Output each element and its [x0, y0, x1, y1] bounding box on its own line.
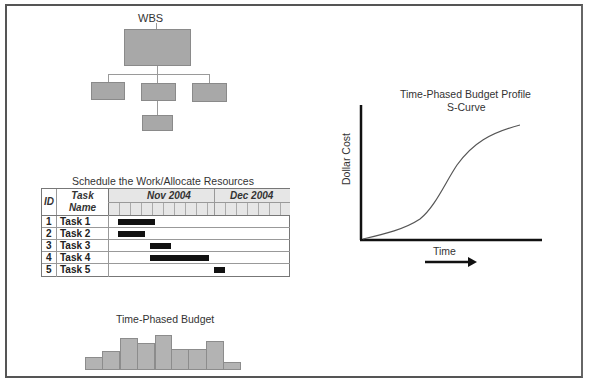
- wbs-connector: [157, 74, 158, 83]
- gantt-tick: [258, 203, 259, 215]
- budget-bar: [223, 362, 241, 370]
- gantt-tick: [163, 203, 164, 215]
- gantt-row-id: 2: [46, 228, 52, 239]
- gantt-row-name: Task 3: [60, 240, 90, 251]
- scurve-xlabel: Time: [433, 245, 456, 257]
- gantt-bar-task-3: [150, 243, 171, 249]
- budget-bar: [155, 335, 172, 370]
- gantt-row-name: Task 5: [60, 264, 90, 275]
- gantt-row-id: 4: [46, 252, 52, 263]
- scurve-line: [363, 125, 520, 239]
- gantt-month-divider: [214, 189, 215, 215]
- wbs-root-box: [124, 29, 191, 66]
- gantt-task-header-1: Task: [57, 190, 108, 201]
- gantt-tick: [130, 203, 131, 215]
- gantt-bar-task-1: [118, 219, 155, 225]
- scurve-ylabel: Dollar Cost: [340, 133, 352, 185]
- gantt-id-header: ID: [42, 196, 56, 207]
- gantt-month-dec: Dec 2004: [230, 190, 273, 201]
- wbs-title: WBS: [138, 12, 163, 24]
- budget-bar: [206, 341, 224, 370]
- wbs-connector: [209, 74, 210, 83]
- gantt-row-id: 5: [46, 264, 52, 275]
- budget-bar: [171, 349, 189, 370]
- gantt-row-name: Task 1: [60, 216, 90, 227]
- gantt-tick: [152, 203, 153, 215]
- wbs-child-box: [192, 83, 227, 102]
- gantt-tick: [174, 203, 175, 215]
- wbs-connector: [157, 66, 158, 74]
- budget-bar: [120, 338, 138, 370]
- gantt-row-id: 1: [46, 216, 52, 227]
- budget-bar: [188, 349, 207, 370]
- wbs-grandchild-box: [142, 115, 173, 131]
- gantt-tick: [207, 203, 208, 215]
- gantt-tick: [236, 203, 237, 215]
- wbs-child-box: [91, 82, 125, 100]
- wbs-connector: [108, 74, 209, 75]
- gantt-month-nov: Nov 2004: [147, 190, 191, 201]
- gantt-tick: [196, 203, 197, 215]
- gantt-task-header-2: Name: [57, 202, 108, 213]
- time-arrow-icon: [468, 257, 477, 267]
- gantt-tick: [119, 203, 120, 215]
- gantt-tick: [185, 203, 186, 215]
- gantt-table: ID Task Name Nov 2004 Dec 2004 1 Task 1 …: [41, 188, 290, 277]
- scurve-title-line1: Time-Phased Budget Profile: [400, 88, 531, 100]
- gantt-header-divider: [108, 202, 290, 203]
- schedule-title: Schedule the Work/Allocate Resources: [72, 175, 254, 187]
- gantt-row-name: Task 2: [60, 228, 90, 239]
- gantt-tick: [141, 203, 142, 215]
- gantt-row-id: 3: [46, 240, 52, 251]
- gantt-bar-task-4: [150, 255, 209, 261]
- gantt-row-name: Task 4: [60, 252, 90, 263]
- gantt-tick: [269, 203, 270, 215]
- gantt-tick: [280, 203, 281, 215]
- gantt-bar-task-2: [118, 231, 145, 237]
- wbs-connector: [157, 101, 158, 116]
- gantt-tick: [225, 203, 226, 215]
- wbs-connector: [108, 74, 109, 82]
- gantt-col-divider: [108, 215, 109, 277]
- budget-title: Time-Phased Budget: [116, 313, 214, 325]
- budget-bar: [102, 351, 120, 370]
- budget-bar: [85, 357, 103, 370]
- budget-bar: [137, 343, 155, 370]
- wbs-child-box: [141, 83, 176, 101]
- gantt-bar-task-5: [214, 267, 225, 273]
- gantt-tick: [247, 203, 248, 215]
